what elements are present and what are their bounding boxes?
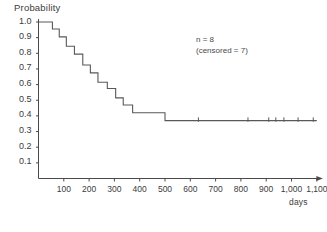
x-tick-label: 1,000 (281, 184, 302, 194)
y-tick-label: 0.3 (6, 125, 32, 135)
x-tick-label: 300 (107, 184, 121, 194)
y-tick-label: 0.4 (6, 109, 32, 119)
x-tick-label: 700 (209, 184, 223, 194)
y-tick-label: 0.2 (6, 141, 32, 151)
y-tick-label: 1.0 (6, 16, 32, 26)
x-tick-label: 900 (259, 184, 273, 194)
x-tick-label: 500 (158, 184, 172, 194)
x-axis-title: days (289, 197, 308, 207)
x-tick-label: 800 (234, 184, 248, 194)
survival-step-curve (39, 22, 317, 121)
x-tick-label: 100 (57, 184, 71, 194)
y-tick-label: 0.5 (6, 94, 32, 104)
x-tick-label: 1,100 (306, 184, 327, 194)
axes-group (39, 19, 323, 181)
x-tick-label: 400 (133, 184, 147, 194)
x-tick-label: 600 (183, 184, 197, 194)
y-tick-label: 0.8 (6, 47, 32, 57)
y-tick-label: 0.7 (6, 62, 32, 72)
y-tick-label: 0.9 (6, 31, 32, 41)
y-tick-label: 0.6 (6, 78, 32, 88)
y-tick-label: 0.1 (6, 156, 32, 166)
x-tick-label: 200 (82, 184, 96, 194)
x-axis-arrowhead (316, 176, 323, 181)
